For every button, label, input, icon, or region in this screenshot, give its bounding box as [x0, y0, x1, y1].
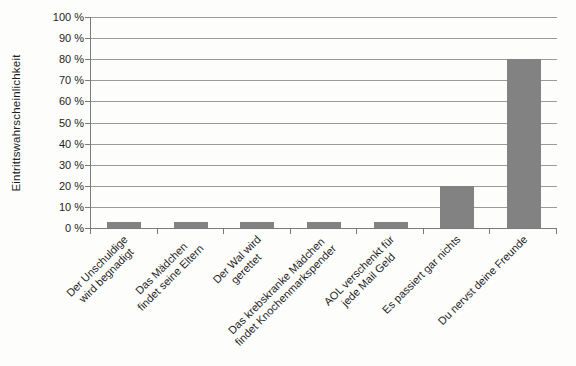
y-tick-label: 20 %: [28, 180, 84, 192]
y-tick-label: 30 %: [28, 159, 84, 171]
y-tick-mark: [85, 186, 90, 187]
bar: [507, 59, 541, 228]
x-tick-mark: [356, 229, 357, 234]
gridline: [91, 38, 557, 39]
x-tick-mark: [90, 229, 91, 234]
y-tick-mark: [85, 38, 90, 39]
y-axis-title: Eintrittswahrscheinlichkeit: [10, 54, 22, 191]
y-tick-label: 10 %: [28, 201, 84, 213]
y-tick-label: 50 %: [28, 117, 84, 129]
gridline: [91, 101, 557, 102]
bar: [174, 222, 208, 228]
y-tick-label: 100 %: [28, 11, 84, 23]
y-tick-label: 90 %: [28, 32, 84, 44]
gridline: [91, 207, 557, 208]
y-tick-label: 0 %: [28, 222, 84, 234]
gridline: [91, 165, 557, 166]
bar: [307, 222, 341, 228]
gridline: [91, 80, 557, 81]
gridline: [91, 59, 557, 60]
y-tick-label: 80 %: [28, 53, 84, 65]
gridline: [91, 17, 557, 18]
bar: [240, 222, 274, 228]
y-tick-mark: [85, 165, 90, 166]
x-tick-mark: [290, 229, 291, 234]
gridline: [91, 123, 557, 124]
y-tick-mark: [85, 80, 90, 81]
y-tick-mark: [85, 207, 90, 208]
x-tick-mark: [489, 229, 490, 234]
x-category-label: Der Wal wird gerettet: [210, 233, 273, 296]
x-category-label: Das Mädchen findet seine Eltern: [126, 233, 207, 314]
plot-area: [90, 17, 557, 229]
y-tick-label: 40 %: [28, 138, 84, 150]
y-tick-label: 70 %: [28, 74, 84, 86]
x-tick-mark: [223, 229, 224, 234]
x-tick-mark: [423, 229, 424, 234]
x-tick-mark: [157, 229, 158, 234]
bar: [440, 186, 474, 228]
bar: [374, 222, 408, 228]
gridline: [91, 186, 557, 187]
y-tick-mark: [85, 59, 90, 60]
gridline: [91, 144, 557, 145]
bar: [107, 222, 141, 228]
y-tick-mark: [85, 17, 90, 18]
bar-chart: Eintrittswahrscheinlichkeit 0 %10 %20 %3…: [0, 0, 576, 366]
y-tick-label: 60 %: [28, 95, 84, 107]
y-tick-mark: [85, 101, 90, 102]
y-tick-mark: [85, 123, 90, 124]
x-tick-mark: [556, 229, 557, 234]
y-tick-mark: [85, 144, 90, 145]
